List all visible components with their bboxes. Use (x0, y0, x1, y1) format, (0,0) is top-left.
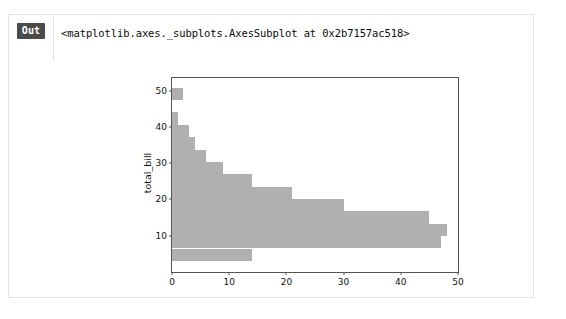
x-tick-label: 20 (281, 277, 292, 287)
notebook-output-cell: Out <matplotlib.axes._subplots.AxesSubpl… (8, 14, 534, 298)
y-tick-mark (169, 199, 172, 200)
histogram-bar (172, 236, 441, 248)
x-tick-mark (172, 272, 173, 275)
screenshot-root: Out <matplotlib.axes._subplots.AxesSubpl… (0, 0, 566, 319)
output-prompt-label: Out (17, 23, 45, 39)
histogram-bar (172, 112, 178, 124)
y-tick-mark (169, 235, 172, 236)
x-tick-mark (458, 272, 459, 275)
histogram-bars (172, 78, 458, 272)
x-tick-label: 40 (395, 277, 406, 287)
x-tick-mark (286, 272, 287, 275)
histogram-bar (172, 88, 183, 100)
x-tick-mark (343, 272, 344, 275)
x-tick-label: 30 (338, 277, 349, 287)
y-tick-mark (169, 163, 172, 164)
histogram-bar (172, 125, 189, 137)
plot-axes: 1020304050 01020304050 (171, 77, 459, 273)
x-tick-mark (229, 272, 230, 275)
histogram-bar (172, 162, 223, 174)
y-tick-mark (169, 126, 172, 127)
histogram-bar (172, 187, 292, 199)
histogram-bar (172, 150, 206, 162)
x-tick-label: 10 (223, 277, 234, 287)
output-divider (53, 17, 54, 61)
output-repr-text: <matplotlib.axes._subplots.AxesSubplot a… (61, 27, 409, 39)
x-tick-label: 0 (169, 277, 175, 287)
x-tick-mark (400, 272, 401, 275)
histogram-bar (172, 249, 252, 261)
y-tick-label: 20 (156, 194, 167, 204)
histogram-bar (172, 199, 344, 211)
matplotlib-figure: total_bill 1020304050 01020304050 (119, 59, 479, 287)
histogram-bar (172, 174, 252, 186)
y-axis-label: total_bill (142, 153, 153, 193)
y-tick-label: 50 (156, 86, 167, 96)
y-tick-label: 30 (156, 158, 167, 168)
y-tick-mark (169, 90, 172, 91)
histogram-bar (172, 224, 447, 236)
histogram-bar (172, 211, 429, 223)
y-tick-label: 40 (156, 122, 167, 132)
x-tick-label: 50 (452, 277, 463, 287)
y-tick-label: 10 (156, 231, 167, 241)
histogram-bar (172, 137, 195, 149)
